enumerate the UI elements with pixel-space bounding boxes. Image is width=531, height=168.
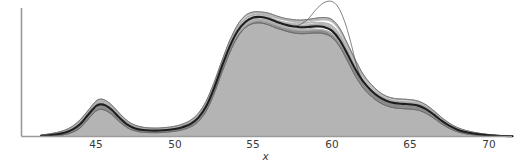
density-plot-figure: 45 50 55 60 65 70 x <box>0 0 531 168</box>
xtick-label-45: 45 <box>76 138 116 150</box>
xtick-label-70: 70 <box>469 138 509 150</box>
xtick-label-55: 55 <box>233 138 273 150</box>
xtick-label-60: 60 <box>312 138 352 150</box>
xtick-label-65: 65 <box>390 138 430 150</box>
x-axis-label: x <box>0 150 531 162</box>
xtick-label-50: 50 <box>155 138 195 150</box>
